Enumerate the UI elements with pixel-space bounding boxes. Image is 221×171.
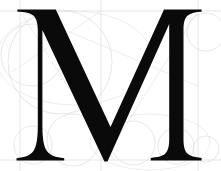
capital-m-glyph: [17, 10, 202, 162]
letterform-canvas: [0, 0, 221, 171]
glyph-layer: [0, 0, 221, 171]
